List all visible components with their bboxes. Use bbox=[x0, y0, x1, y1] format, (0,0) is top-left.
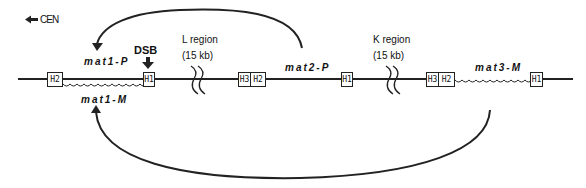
k-region-size: (15 kb) bbox=[373, 50, 404, 61]
mat2-h2-box: H2 bbox=[250, 72, 266, 87]
arrow-mat3-to-mat1 bbox=[96, 110, 490, 178]
mat2-p-label: mat2-P bbox=[285, 62, 330, 73]
mat3-m-wavy-line bbox=[455, 80, 532, 82]
mat1-m-label: mat1-M bbox=[81, 94, 128, 105]
mat3-h2-box: H2 bbox=[438, 72, 455, 87]
mat3-h1-box: H1 bbox=[530, 72, 543, 87]
l-region-label: L region bbox=[182, 34, 218, 45]
dsb-label: DSB bbox=[134, 44, 157, 56]
left-arrow-icon bbox=[25, 16, 38, 24]
mat1-m-wavy-line bbox=[63, 84, 147, 86]
mat2-h1-box: H1 bbox=[341, 72, 353, 87]
dsb-arrow-icon bbox=[142, 57, 154, 69]
arrowhead-icon bbox=[91, 105, 101, 113]
mat1-p-label: mat1-P bbox=[84, 56, 129, 67]
k-region-label: K region bbox=[373, 34, 410, 45]
l-region-size: (15 kb) bbox=[182, 50, 213, 61]
mat1-h2-box: H2 bbox=[47, 72, 63, 87]
arrowhead-icon bbox=[92, 43, 103, 51]
mat3-m-label: mat3-M bbox=[475, 62, 522, 73]
centromere-label: CEN bbox=[40, 14, 58, 25]
mat1-h1-box: H1 bbox=[143, 72, 155, 87]
